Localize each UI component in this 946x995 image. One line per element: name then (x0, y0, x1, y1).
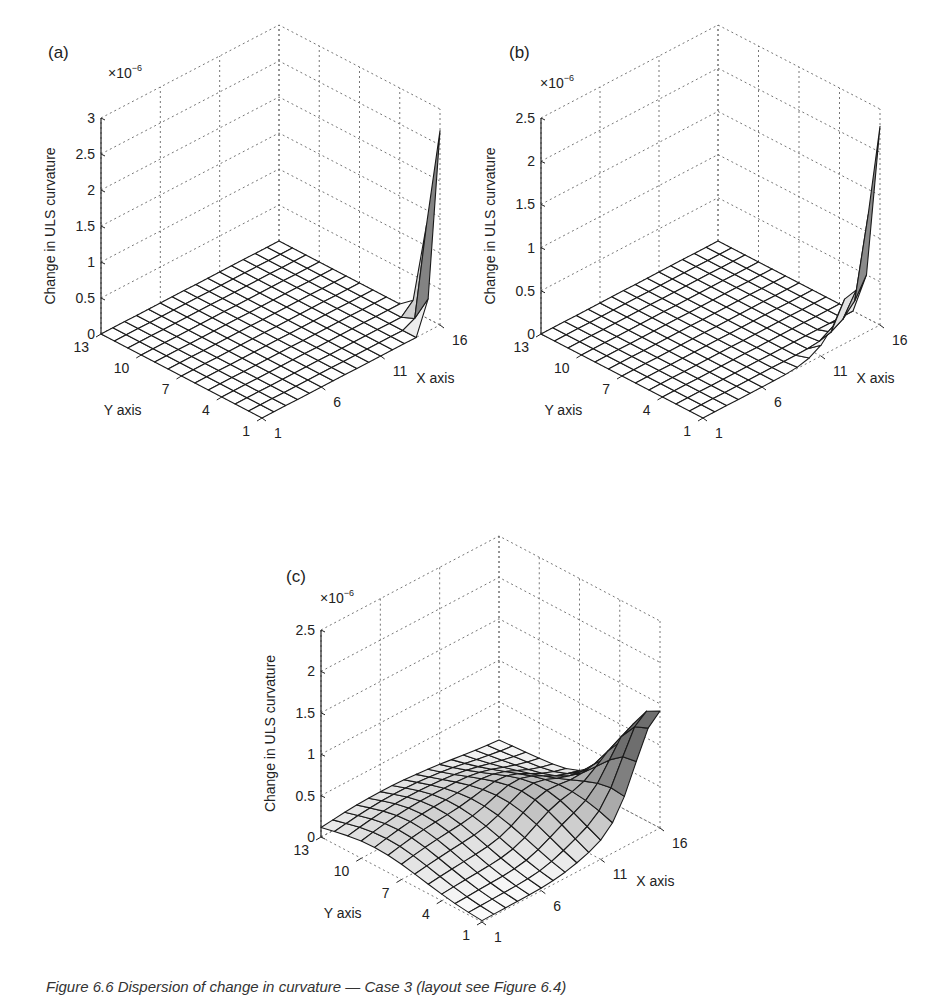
x-tick-label: 16 (672, 835, 688, 851)
z-tick-label: 1.5 (516, 196, 536, 212)
y-tick-label: 10 (554, 360, 570, 376)
surface-mesh (541, 126, 880, 418)
z-axis-label: Change in ULS curvature (262, 655, 278, 812)
x-tick-label: 11 (393, 363, 408, 379)
panel-label: (a) (48, 43, 69, 62)
z-tick-label: 2.5 (296, 622, 316, 638)
z-tick-label: 1 (87, 254, 95, 270)
z-axis-label: Change in ULS curvature (482, 147, 498, 304)
x-tick-label: 1 (494, 929, 502, 945)
z-multiplier: ×10−6 (108, 63, 142, 81)
panel-label: (c) (286, 567, 306, 586)
y-tick-label: 4 (422, 906, 430, 922)
x-axis-label: X axis (416, 370, 454, 386)
y-tick-label: 13 (293, 842, 309, 858)
y-tick-label: 10 (334, 863, 350, 879)
x-tick-label: 1 (274, 425, 282, 441)
y-tick-label: 7 (162, 381, 170, 397)
y-tick-label: 1 (462, 927, 470, 943)
x-tick-label: 16 (452, 332, 468, 348)
y-tick-label: 7 (382, 885, 390, 901)
z-axis-label: Change in ULS curvature (42, 147, 58, 304)
x-tick-label: 11 (833, 363, 848, 379)
panel-c: 00.511.522.5×10−6Change in ULS curvature… (262, 536, 688, 945)
y-tick-label: 7 (602, 381, 610, 397)
panel-label: (b) (509, 43, 530, 62)
panel-b: 00.511.522.5×10−6Change in ULS curvature… (482, 25, 908, 441)
x-tick-label: 6 (333, 394, 341, 410)
surface-mesh (321, 711, 660, 921)
x-tick-label: 11 (613, 866, 628, 882)
x-axis-label: X axis (636, 873, 674, 889)
x-axis-label: X axis (857, 370, 895, 386)
z-tick-label: 1 (307, 746, 315, 762)
y-tick-label: 4 (643, 402, 651, 418)
y-axis-label: Y axis (104, 402, 142, 418)
z-tick-label: 2 (87, 182, 95, 198)
z-tick-label: 1.5 (296, 705, 316, 721)
y-tick-label: 13 (513, 339, 529, 355)
y-axis-label: Y axis (324, 905, 362, 921)
y-tick-label: 1 (683, 423, 691, 439)
z-multiplier: ×10−6 (320, 588, 354, 606)
z-tick-label: 2.5 (76, 146, 96, 162)
x-tick-label: 16 (892, 332, 908, 348)
y-tick-label: 4 (202, 402, 210, 418)
panel-a: 00.511.522.53×10−6Change in ULS curvatur… (42, 25, 468, 441)
z-tick-label: 1.5 (76, 218, 96, 234)
figure-caption: Figure 6.6 Dispersion of change in curva… (46, 978, 566, 995)
y-tick-label: 1 (242, 423, 250, 439)
x-tick-label: 1 (715, 425, 723, 441)
z-tick-label: 0.5 (296, 788, 316, 804)
z-tick-label: 1 (527, 240, 535, 256)
z-tick-label: 2 (527, 153, 535, 169)
z-tick-label: 2.5 (516, 110, 536, 126)
z-tick-label: 3 (87, 110, 95, 126)
x-tick-label: 6 (553, 898, 561, 914)
z-multiplier: ×10−6 (540, 73, 574, 91)
y-axis-label: Y axis (544, 402, 582, 418)
z-tick-label: 0.5 (76, 290, 96, 306)
y-tick-label: 10 (114, 360, 130, 376)
x-tick-label: 6 (774, 394, 782, 410)
y-tick-label: 13 (73, 339, 89, 355)
z-tick-label: 0.5 (516, 283, 536, 299)
z-tick-label: 2 (307, 663, 315, 679)
